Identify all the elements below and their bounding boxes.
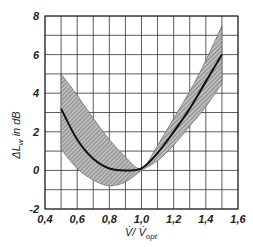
y-axis-label: ΔLw in dB xyxy=(10,111,25,159)
chart: -202468 0,40,60,81,01,21,41,6 ΔLw in dB … xyxy=(0,0,253,247)
y-tick-labels: -202468 xyxy=(29,10,40,215)
x-tick-labels: 0,40,60,81,01,21,41,6 xyxy=(37,213,246,225)
x-tick-label: 1,6 xyxy=(230,213,246,225)
y-tick-label: 6 xyxy=(33,49,40,61)
x-tick-label: 1,0 xyxy=(134,213,150,225)
x-tick-label: 1,2 xyxy=(166,213,181,225)
x-tick-label: 0,6 xyxy=(70,213,86,225)
y-tick-label: 2 xyxy=(32,126,39,138)
x-tick-label: 0,4 xyxy=(37,213,52,225)
y-tick-label: 0 xyxy=(33,164,40,176)
y-tick-label: 8 xyxy=(33,10,40,22)
x-tick-label: 0,8 xyxy=(102,213,118,225)
x-tick-label: 1,4 xyxy=(198,213,213,225)
x-axis-label: V̇/ V̇opt xyxy=(125,226,158,241)
y-tick-label: 4 xyxy=(32,87,39,99)
